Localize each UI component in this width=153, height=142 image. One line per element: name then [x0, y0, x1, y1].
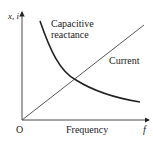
reactance-current-diagram: x, i Capacitive reactance Current O Freq…: [0, 0, 153, 142]
y-axis-label: x, i: [8, 11, 19, 22]
current-label: Current: [109, 55, 140, 66]
reactance-label-line1: Capacitive: [51, 18, 94, 29]
x-axis-title: Frequency: [66, 124, 108, 135]
reactance-label-line2: reactance: [51, 29, 89, 40]
x-axis-symbol: f: [143, 124, 146, 135]
origin-label: O: [16, 124, 23, 135]
